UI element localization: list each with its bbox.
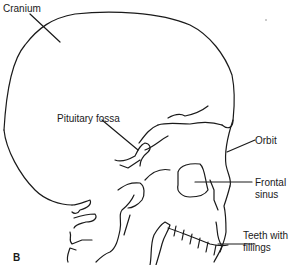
frontal-sinus-shape (178, 164, 208, 197)
mandible (150, 222, 170, 265)
label-pituitary-fossa: Pituitary fossa (57, 113, 120, 124)
label-teeth-1: Teeth with (243, 230, 288, 241)
maxilla-contour (118, 169, 170, 208)
anterior-cranial-base (168, 106, 208, 118)
orbit-curve (225, 120, 233, 186)
pituitary-leader (102, 120, 138, 150)
label-frontal-sinus-1: Frontal (255, 177, 286, 188)
label-cranium: Cranium (3, 3, 41, 14)
speck (265, 19, 267, 21)
tooth-tick (174, 226, 216, 255)
vertebra-2 (74, 214, 96, 228)
label-orbit: Orbit (255, 135, 277, 146)
facial-profile (220, 186, 230, 252)
orbit-leader (227, 140, 255, 152)
panel-label: B (13, 252, 20, 263)
label-frontal-sinus-2: sinus (255, 189, 278, 200)
vertebra-1 (72, 200, 91, 213)
skull-outline-drawing (0, 0, 293, 265)
occipital-curve (4, 130, 72, 205)
vertebra-4 (67, 248, 76, 262)
ramus (96, 195, 134, 262)
occlusal-line (168, 228, 228, 246)
skull-diagram: Cranium Pituitary fossa Orbit Frontal si… (0, 0, 293, 265)
label-teeth-2: fillings (243, 242, 271, 253)
vertebra-3 (70, 232, 92, 244)
pituitary-fossa (115, 143, 150, 168)
orbit-roof (158, 122, 222, 125)
cranium-leader (30, 14, 60, 42)
